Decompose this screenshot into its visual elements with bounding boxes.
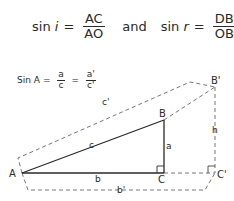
similar-triangles-diagram: A B C B' C' a b c b' c' h <box>0 0 234 201</box>
label-height-h: h <box>212 125 218 135</box>
dashed-outline <box>18 82 215 190</box>
label-c-vertex: C <box>158 174 165 185</box>
label-side-b-prime: b' <box>117 185 125 195</box>
label-b-prime-vertex: B' <box>211 75 221 86</box>
label-b-vertex: B <box>159 108 166 119</box>
right-angle-marker-c-prime <box>208 166 215 173</box>
right-angle-marker-c <box>157 166 164 173</box>
label-c-prime-vertex: C' <box>217 169 227 180</box>
dashed-hypotenuse-c-prime <box>18 82 215 173</box>
label-side-c: c <box>89 140 94 150</box>
label-side-a: a <box>166 141 172 151</box>
dashed-b-to-b-prime <box>164 87 215 120</box>
label-a-vertex: A <box>9 168 16 179</box>
label-side-b: b <box>95 174 101 184</box>
label-side-c-prime: c' <box>102 97 109 107</box>
